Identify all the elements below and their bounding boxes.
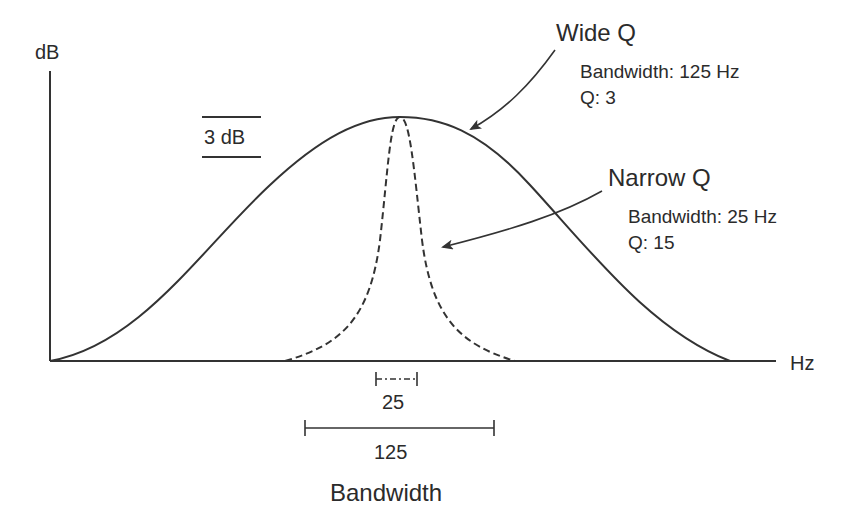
narrow-bandwidth-value: 25 [382,392,404,412]
x-axis-label: Hz [790,353,814,373]
narrow-q-title: Narrow Q [608,166,711,190]
wide-q-bandwidth: Bandwidth: 125 Hz [580,60,740,84]
wide-q-q-value: Q: 3 [580,86,616,110]
wide-bandwidth-bracket [305,420,494,436]
narrow-q-bandwidth: Bandwidth: 25 Hz [628,205,777,229]
y-axis-label: dB [35,42,59,62]
wide-q-arrow [471,50,555,129]
bandwidth-caption: Bandwidth [330,481,442,505]
wide-q-title: Wide Q [556,21,636,45]
narrow-q-q-value: Q: 15 [628,231,674,255]
narrow-bandwidth-bracket [376,372,417,386]
scale-marker-label: 3 dB [204,127,245,147]
wide-bandwidth-value: 125 [374,442,407,462]
narrow-q-curve [285,117,515,361]
